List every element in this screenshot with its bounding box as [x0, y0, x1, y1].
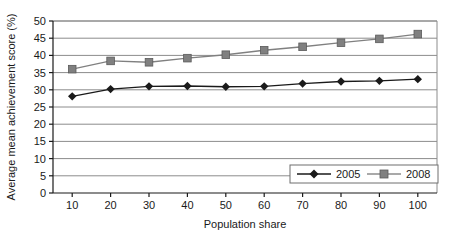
y-tick-label: 40: [34, 49, 46, 61]
data-point-square: [299, 43, 307, 51]
x-tick-label: 70: [296, 199, 308, 211]
data-point-square: [376, 35, 384, 43]
y-tick-label: 25: [34, 101, 46, 113]
x-axis-ticks: 102030405060708090100: [66, 193, 427, 211]
x-tick-label: 20: [104, 199, 116, 211]
legend-label-2008: 2008: [406, 168, 430, 180]
data-point-square: [337, 39, 345, 47]
data-point-square: [145, 58, 153, 66]
y-tick-label: 45: [34, 32, 46, 44]
y-tick-label: 5: [40, 170, 46, 182]
x-tick-label: 100: [409, 199, 427, 211]
y-tick-label: 35: [34, 67, 46, 79]
data-point-square: [107, 57, 115, 65]
data-point-square: [68, 65, 76, 73]
y-tick-label: 30: [34, 84, 46, 96]
data-point-square: [260, 46, 268, 54]
x-axis-title: Population share: [204, 218, 287, 230]
data-point-square: [222, 51, 230, 59]
y-tick-label: 0: [40, 187, 46, 199]
y-tick-label: 20: [34, 118, 46, 130]
data-point-square: [184, 54, 192, 62]
y-axis-title: Average mean achievement score (%): [5, 14, 17, 201]
chart-container: 05101520253035404550 1020304050607080901…: [0, 0, 449, 237]
y-tick-label: 15: [34, 135, 46, 147]
x-tick-label: 50: [220, 199, 232, 211]
y-axis-ticks: 05101520253035404550: [34, 15, 53, 199]
x-tick-label: 60: [258, 199, 270, 211]
x-tick-label: 30: [143, 199, 155, 211]
square-icon: [380, 170, 388, 178]
legend-label-2005: 2005: [336, 168, 360, 180]
legend: 2005 2008: [290, 165, 438, 183]
data-point-square: [414, 30, 422, 38]
y-tick-label: 50: [34, 15, 46, 27]
x-tick-label: 10: [66, 199, 78, 211]
x-tick-label: 80: [335, 199, 347, 211]
line-chart: 05101520253035404550 1020304050607080901…: [0, 0, 449, 237]
y-tick-label: 10: [34, 153, 46, 165]
x-tick-label: 40: [181, 199, 193, 211]
x-tick-label: 90: [373, 199, 385, 211]
